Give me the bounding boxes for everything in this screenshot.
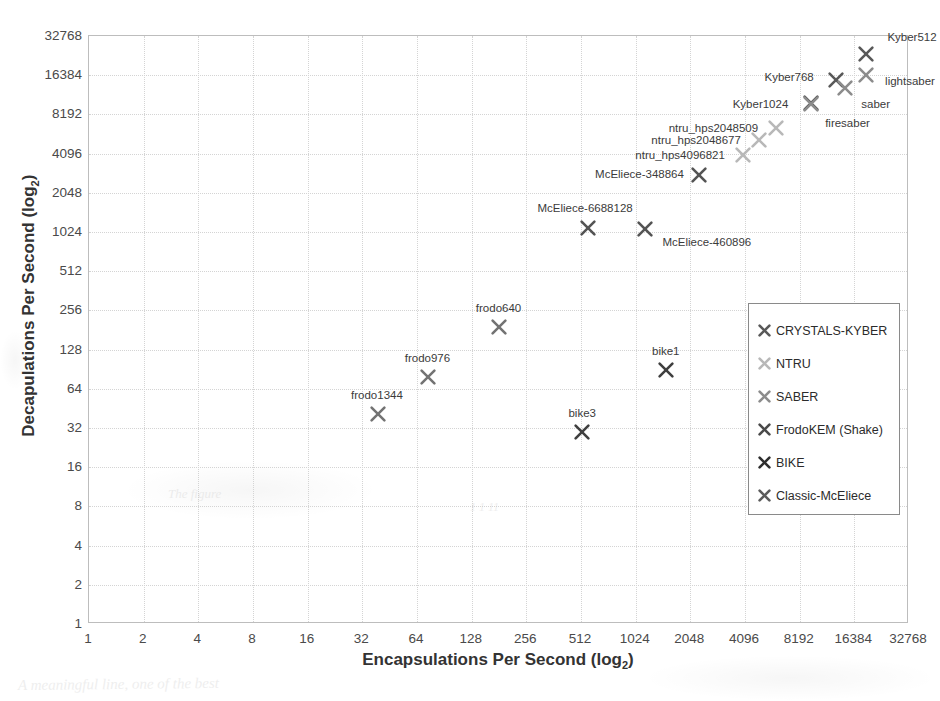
x-axis-tick-label: 2048 — [674, 631, 704, 646]
data-point-label: McEliece-460896 — [662, 236, 751, 248]
cross-x-icon — [757, 356, 772, 371]
x-axis-tick-label: 1 — [84, 631, 92, 646]
x-axis-tick-label: 512 — [569, 631, 592, 646]
cross-x-icon — [757, 389, 772, 404]
data-point-label: ntru_hps4096821 — [635, 149, 725, 161]
data-point-marker — [573, 423, 591, 441]
y-axis-tick-label: 8192 — [8, 106, 82, 121]
legend-item-crystals-kyber[interactable]: CRYSTALS-KYBER — [757, 314, 899, 347]
gridline-vertical — [526, 36, 527, 622]
gridline-vertical — [581, 36, 582, 622]
gridline-horizontal — [89, 585, 907, 586]
gridline-vertical — [308, 36, 309, 622]
legend-item-classic-mceliece[interactable]: Classic-McEliece — [757, 479, 899, 512]
x-axis-tick-label: 256 — [514, 631, 537, 646]
y-axis-tick-label: 2 — [8, 576, 82, 591]
x-axis-tick-label: 1024 — [620, 631, 650, 646]
y-axis-tick-label: 8 — [8, 498, 82, 513]
x-axis-tick-label: 4096 — [729, 631, 759, 646]
y-axis-tick-label: 16384 — [8, 67, 82, 82]
legend-item-bike[interactable]: BIKE — [757, 446, 899, 479]
y-axis-tick-label: 32768 — [8, 28, 82, 43]
gridline-horizontal — [89, 232, 907, 233]
chart-legend: CRYSTALS-KYBERNTRUSABERFrodoKEM (Shake)B… — [748, 303, 900, 515]
x-axis-tick-label: 128 — [459, 631, 482, 646]
data-point-marker — [419, 368, 437, 386]
data-point-marker — [767, 119, 785, 137]
cross-x-icon — [757, 422, 772, 437]
data-point-label: firesaber — [825, 117, 870, 129]
data-point-marker — [734, 146, 752, 164]
data-point-label: ntru_hps2048509 — [669, 122, 759, 134]
legend-item-label: BIKE — [776, 456, 805, 470]
x-axis-tick-label: 64 — [408, 631, 423, 646]
x-axis-tick-label: 8 — [248, 631, 256, 646]
gridline-vertical — [198, 36, 199, 622]
data-point-marker — [827, 71, 845, 89]
x-axis-tick-label: 16384 — [835, 631, 873, 646]
data-point-label: lightsaber — [885, 75, 935, 87]
x-axis-tick-label: 8192 — [784, 631, 814, 646]
data-point-marker — [802, 95, 820, 113]
data-point-marker — [369, 405, 387, 423]
scatter-chart: 1248163264128256512102420484096819216384… — [0, 0, 940, 701]
legend-item-label: Classic-McEliece — [776, 489, 871, 503]
data-point-marker — [836, 79, 854, 97]
legend-item-ntru[interactable]: NTRU — [757, 347, 899, 380]
x-axis-tick-label: 16 — [299, 631, 314, 646]
y-axis-tick-label: 1 — [8, 616, 82, 631]
y-axis-title-tail: ) — [19, 175, 38, 181]
gridline-vertical — [636, 36, 637, 622]
legend-item-label: CRYSTALS-KYBER — [776, 324, 887, 338]
gridline-vertical — [362, 36, 363, 622]
data-point-label: frodo1344 — [351, 389, 403, 401]
x-axis-title: Encapsulations Per Second (log2) — [88, 650, 908, 671]
x-axis-title-tail: ) — [628, 650, 634, 669]
x-axis-title-text: Encapsulations Per Second (log — [362, 650, 622, 669]
data-point-label: ntru_hps2048677 — [651, 134, 741, 146]
x-axis-tick-label: 32768 — [889, 631, 927, 646]
gridline-vertical — [253, 36, 254, 622]
legend-item-label: FrodoKEM (Shake) — [776, 423, 883, 437]
data-point-label: frodo640 — [476, 302, 521, 314]
legend-item-frodokem-shake[interactable]: FrodoKEM (Shake) — [757, 413, 899, 446]
data-point-label: McEliece-6688128 — [537, 202, 632, 214]
data-point-label: saber — [861, 98, 890, 110]
cross-x-icon — [757, 455, 772, 470]
data-point-marker — [657, 361, 675, 379]
data-point-marker — [490, 318, 508, 336]
data-point-label: bike1 — [652, 345, 680, 357]
data-point-marker — [802, 94, 820, 112]
gridline-horizontal — [89, 193, 907, 194]
data-point-label: Kyber512 — [887, 31, 936, 43]
data-point-label: Kyber1024 — [733, 98, 789, 110]
legend-item-label: NTRU — [776, 357, 811, 371]
cross-x-icon — [757, 323, 772, 338]
gridline-vertical — [144, 36, 145, 622]
y-axis-tick-label: 4 — [8, 537, 82, 552]
x-axis-tick-label: 4 — [194, 631, 202, 646]
gridline-horizontal — [89, 114, 907, 115]
gridline-horizontal — [89, 546, 907, 547]
y-axis-title-subscript: 2 — [29, 180, 41, 186]
data-point-label: bike3 — [568, 407, 596, 419]
legend-item-saber[interactable]: SABER — [757, 380, 899, 413]
data-point-label: frodo976 — [405, 352, 450, 364]
data-point-marker — [690, 166, 708, 184]
x-axis-tick-label: 32 — [354, 631, 369, 646]
data-point-marker — [636, 220, 654, 238]
data-point-label: Kyber768 — [764, 71, 813, 83]
legend-item-label: SABER — [776, 390, 818, 404]
y-axis-title-text: Decapulations Per Second (log — [19, 186, 38, 436]
y-axis-title: Decapulations Per Second (log2) — [19, 141, 40, 471]
gridline-vertical — [472, 36, 473, 622]
data-point-marker — [857, 45, 875, 63]
cross-x-icon — [757, 488, 772, 503]
data-point-label: McEliece-348864 — [595, 168, 684, 180]
scan-bleedthrough-text: A meaningful line, one of the best — [18, 675, 219, 694]
gridline-horizontal — [89, 271, 907, 272]
gridline-vertical — [417, 36, 418, 622]
gridline-horizontal — [89, 154, 907, 155]
x-axis-tick-label: 2 — [139, 631, 147, 646]
